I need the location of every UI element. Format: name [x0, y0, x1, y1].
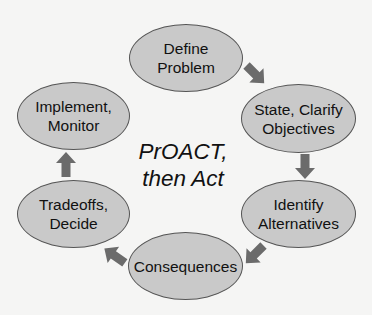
node-label: State, Clarify	[254, 100, 343, 119]
center-title-line1: PrOACT,	[128, 138, 238, 165]
node-define-problem: DefineProblem	[129, 24, 243, 92]
node-identify-alternatives: IdentifyAlternatives	[241, 180, 356, 248]
node-label: Tradeoffs,	[39, 195, 108, 214]
node-state-objectives: State, ClarifyObjectives	[241, 84, 356, 153]
arrow-define-to-objectives	[239, 58, 271, 90]
node-tradeoffs-decide: Tradeoffs,Decide	[17, 180, 130, 248]
node-label: Problem	[157, 58, 215, 77]
arrow-consequences-to-tradeoffs	[99, 240, 131, 271]
arrow-alternatives-to-consequences	[239, 238, 271, 270]
node-label: Objectives	[254, 119, 343, 138]
arrow-tradeoffs-to-implement	[56, 152, 76, 177]
node-label: Monitor	[35, 116, 112, 135]
node-consequences: Consequences	[128, 232, 243, 300]
node-label: Identify	[258, 195, 339, 214]
node-label: Alternatives	[258, 214, 339, 233]
center-title: PrOACT, then Act	[128, 138, 238, 192]
arrow-objectives-to-alternatives	[295, 154, 315, 179]
node-label: Define	[157, 39, 215, 58]
node-label: Implement,	[35, 97, 112, 116]
center-title-line2: then Act	[128, 165, 238, 192]
node-implement-monitor: Implement,Monitor	[17, 82, 130, 150]
node-label: Consequences	[134, 257, 237, 276]
node-label: Decide	[39, 214, 108, 233]
